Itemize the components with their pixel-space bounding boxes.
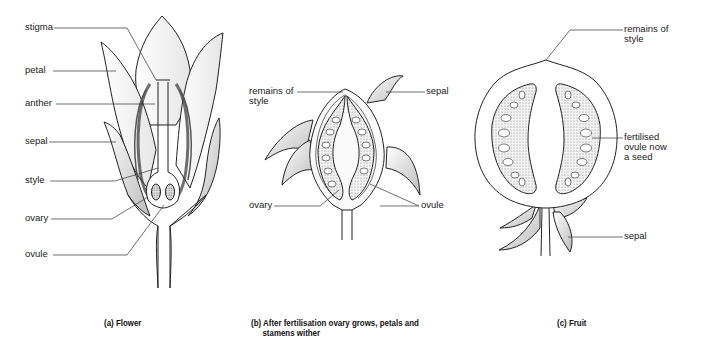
label-remains-of-style-c-line2: style — [624, 34, 644, 45]
label-petal: petal — [25, 65, 46, 76]
fertilised-flower-diagram — [265, 76, 420, 240]
label-remains-of-style-b-line2: style — [249, 96, 269, 107]
label-sepal-c: sepal — [624, 231, 647, 242]
label-seed-line3: a seed — [624, 152, 653, 163]
caption-after-fertilisation: (b) After fertilisation ovary grows, pet… — [251, 318, 419, 338]
label-style: style — [25, 175, 45, 186]
label-ovule-b: ovule — [421, 200, 444, 211]
fruit-diagram — [475, 60, 617, 256]
caption-after-fertilisation-line2: stamens wither — [251, 328, 419, 338]
label-ovule: ovule — [25, 249, 48, 260]
caption-after-fertilisation-line1: (b) After fertilisation ovary grows, pet… — [251, 318, 419, 328]
label-ovary-b: ovary — [249, 200, 272, 211]
flower-diagram — [101, 16, 223, 288]
label-sepal-b: sepal — [426, 86, 449, 97]
label-anther: anther — [25, 98, 52, 109]
label-ovary: ovary — [25, 213, 48, 224]
label-sepal: sepal — [25, 136, 48, 147]
diagram-artwork — [0, 0, 709, 357]
caption-flower: (a) Flower — [104, 318, 141, 328]
caption-fruit: (c) Fruit — [557, 318, 586, 328]
label-stigma: stigma — [25, 22, 53, 33]
